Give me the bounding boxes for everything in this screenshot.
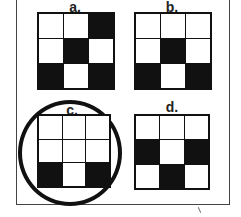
empty-cell-r3c2 xyxy=(161,64,185,88)
empty-cell-r2c1 xyxy=(39,39,63,63)
filled-cell-r2c2 xyxy=(161,39,185,63)
empty-cell-r2c3 xyxy=(86,140,109,163)
grid-a xyxy=(37,12,115,90)
filled-cell-r3c1 xyxy=(136,64,160,88)
empty-cell-r2c1 xyxy=(39,140,62,163)
empty-cell-r1c2 xyxy=(161,14,185,38)
filled-cell-r3c1 xyxy=(39,64,63,88)
filled-cell-r2c1 xyxy=(136,140,159,163)
filled-cell-r2c2 xyxy=(64,39,88,63)
empty-cell-r1c2 xyxy=(64,14,88,38)
grid-b xyxy=(134,12,212,90)
empty-cell-r3c2 xyxy=(64,64,88,88)
empty-cell-r1c2 xyxy=(63,116,86,139)
empty-cell-r1c1 xyxy=(136,116,159,139)
filled-cell-r3c1 xyxy=(39,163,62,186)
grid-d xyxy=(134,114,210,190)
empty-cell-r3c3 xyxy=(185,165,208,188)
filled-cell-r3c3 xyxy=(89,64,113,88)
filled-cell-r2c3 xyxy=(185,140,208,163)
empty-cell-r1c1 xyxy=(39,116,62,139)
option-label-d: d. xyxy=(134,100,210,114)
grid-c xyxy=(37,114,111,188)
empty-cell-r2c2 xyxy=(160,140,183,163)
empty-cell-r2c3 xyxy=(186,39,210,63)
filled-cell-r3c3 xyxy=(86,163,109,186)
empty-cell-r3c2 xyxy=(63,163,86,186)
filled-cell-r1c3 xyxy=(89,14,113,38)
empty-cell-r1c1 xyxy=(136,14,160,38)
empty-cell-r1c3 xyxy=(86,116,109,139)
filled-cell-r3c2 xyxy=(160,165,183,188)
empty-cell-r1c1 xyxy=(39,14,63,38)
empty-cell-r2c1 xyxy=(136,39,160,63)
filled-cell-r3c3 xyxy=(186,64,210,88)
empty-cell-r2c3 xyxy=(89,39,113,63)
empty-cell-r1c3 xyxy=(185,116,208,139)
empty-cell-r2c2 xyxy=(63,140,86,163)
empty-cell-r1c3 xyxy=(186,14,210,38)
stray-mark xyxy=(198,207,201,213)
empty-cell-r3c1 xyxy=(136,165,159,188)
empty-cell-r1c2 xyxy=(160,116,183,139)
